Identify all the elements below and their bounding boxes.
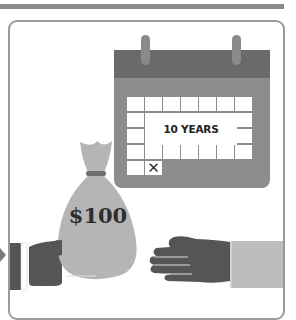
left-shirt-cuff: [21, 243, 27, 290]
left-sleeve-cuff: [10, 243, 21, 290]
left-arrow-icon: [0, 248, 6, 262]
bag-amount-label: $100: [58, 203, 138, 228]
right-sleeve: [230, 241, 283, 288]
right-hand-icon: [150, 236, 230, 282]
